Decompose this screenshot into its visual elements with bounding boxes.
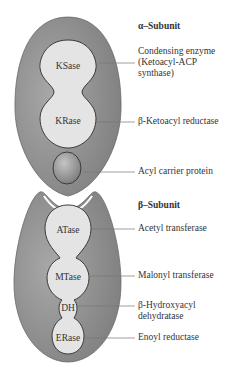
krase-label: KRase: [55, 116, 80, 126]
alpha-subunit-title: α–Subunit: [138, 21, 180, 32]
dh-label: DH: [61, 303, 75, 313]
beta-subunit-title: β–Subunit: [138, 200, 180, 211]
erase-label: ERase: [56, 333, 80, 343]
acp-label: Acyl carrier protein: [138, 166, 213, 177]
malonyl-transferase-label: Malonyl transferase: [138, 270, 214, 281]
acp-shape: [53, 152, 81, 184]
ksase-label: KSase: [56, 61, 80, 71]
condensing-enzyme-label: Condensing enzyme (Ketoacyl-ACP synthase…: [138, 46, 215, 79]
enoyl-reductase-label: Enoyl reductase: [138, 332, 199, 343]
acetyl-transferase-label: Acetyl transferase: [138, 223, 207, 234]
mtase-label: MTase: [55, 272, 81, 282]
atase-label: ATase: [56, 225, 79, 235]
ketoacyl-reductase-label: β-Ketoacyl reductase: [138, 116, 219, 127]
hydroxyacyl-dehydratase-label: β-Hydroxyacyl dehydratase: [138, 300, 196, 322]
